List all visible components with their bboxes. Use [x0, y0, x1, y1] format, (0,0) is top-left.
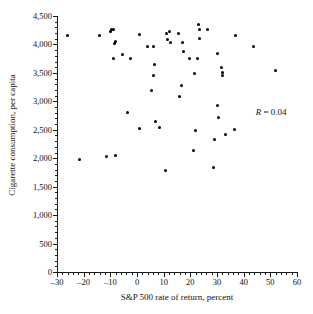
y-minor-tick	[55, 261, 57, 262]
y-minor-tick	[55, 27, 57, 28]
y-minor-tick	[55, 221, 57, 222]
x-tick-label: 40	[239, 278, 248, 287]
data-point	[164, 169, 167, 172]
data-point	[112, 57, 115, 60]
data-point	[197, 23, 200, 26]
y-minor-tick	[55, 33, 57, 34]
y-minor-tick	[55, 153, 57, 154]
x-minor-tick	[73, 273, 74, 275]
y-minor-tick	[55, 238, 57, 239]
data-point	[198, 37, 201, 40]
y-axis-line	[57, 16, 58, 273]
data-point	[220, 66, 223, 69]
y-minor-tick	[55, 255, 57, 256]
y-minor-tick	[55, 198, 57, 199]
data-point	[192, 149, 195, 152]
data-point	[212, 166, 215, 169]
y-tick	[53, 101, 57, 102]
y-minor-tick	[55, 84, 57, 85]
x-minor-tick	[142, 273, 143, 275]
x-minor-tick	[132, 273, 133, 275]
x-minor-tick	[185, 273, 186, 275]
data-point	[234, 34, 237, 37]
y-minor-tick	[55, 147, 57, 148]
x-minor-tick	[212, 273, 213, 275]
y-minor-tick	[55, 107, 57, 108]
y-minor-tick	[55, 232, 57, 233]
x-minor-tick	[116, 273, 117, 275]
y-minor-tick	[55, 39, 57, 40]
y-tick	[53, 244, 57, 245]
x-minor-tick	[148, 273, 149, 275]
data-point	[66, 34, 69, 37]
data-point	[181, 41, 184, 44]
data-point	[114, 40, 117, 43]
data-point	[182, 50, 185, 53]
data-point	[198, 28, 201, 31]
data-point	[216, 104, 219, 107]
x-minor-tick	[206, 273, 207, 275]
data-point	[169, 41, 172, 44]
y-tick-label: 0	[48, 268, 52, 277]
y-tick-label: 4,500	[33, 12, 52, 21]
y-minor-tick	[55, 192, 57, 193]
y-axis-title: Cigarette consumption, per capita	[7, 60, 17, 210]
y-tick-label: 1,000	[33, 211, 52, 220]
y-minor-tick	[55, 22, 57, 23]
data-point	[233, 128, 236, 131]
y-tick-label: 3,000	[33, 97, 52, 106]
data-point	[196, 57, 199, 60]
data-point	[112, 28, 115, 31]
x-tick-label: 10	[159, 278, 168, 287]
x-minor-tick	[233, 273, 234, 275]
x-minor-tick	[238, 273, 239, 275]
data-point	[252, 45, 255, 48]
x-minor-tick	[153, 273, 154, 275]
data-point	[105, 155, 108, 158]
x-minor-tick	[78, 273, 79, 275]
data-point	[153, 63, 156, 66]
y-minor-tick	[55, 204, 57, 205]
data-point	[217, 116, 220, 119]
data-point	[194, 129, 197, 132]
correlation-annotation: R = 0.04	[256, 107, 287, 117]
scatter-chart-figure: 05001,0001,5002,0002,5003,0003,5004,0004…	[0, 0, 313, 314]
y-minor-tick	[55, 170, 57, 171]
x-minor-tick	[94, 273, 95, 275]
y-minor-tick	[55, 135, 57, 136]
x-tick-label: –30	[51, 278, 64, 287]
y-minor-tick	[55, 124, 57, 125]
x-minor-tick	[292, 273, 293, 275]
x-minor-tick	[196, 273, 197, 275]
data-point	[213, 138, 216, 141]
x-minor-tick	[174, 273, 175, 275]
y-minor-tick	[55, 62, 57, 63]
y-minor-tick	[55, 56, 57, 57]
x-minor-tick	[260, 273, 261, 275]
data-point	[206, 28, 209, 31]
data-point	[224, 133, 227, 136]
y-tick	[53, 215, 57, 216]
data-point	[121, 53, 124, 56]
y-tick	[53, 187, 57, 188]
x-minor-tick	[222, 273, 223, 275]
x-tick-label: 60	[293, 278, 302, 287]
y-minor-tick	[55, 50, 57, 51]
data-point	[178, 95, 181, 98]
y-minor-tick	[55, 113, 57, 114]
data-point	[193, 72, 196, 75]
x-minor-tick	[286, 273, 287, 275]
x-tick-label: 50	[266, 278, 275, 287]
x-minor-tick	[254, 273, 255, 275]
data-point	[180, 84, 183, 87]
data-point	[188, 57, 191, 60]
data-point	[150, 89, 153, 92]
data-point	[98, 34, 101, 37]
data-point	[274, 69, 277, 72]
x-minor-tick	[158, 273, 159, 275]
y-minor-tick	[55, 79, 57, 80]
y-minor-tick	[55, 226, 57, 227]
x-minor-tick	[68, 273, 69, 275]
x-minor-tick	[281, 273, 282, 275]
data-point	[154, 120, 157, 123]
